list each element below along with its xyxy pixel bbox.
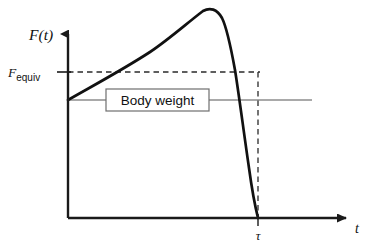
f-equiv-label: Fequiv — [7, 65, 40, 83]
diagram-canvas: F(t) Fequiv τ t Body weight — [0, 0, 372, 249]
tau-label-text: τ — [256, 228, 262, 243]
body-weight-annotation: Body weight — [106, 89, 209, 111]
body-weight-box-label: Body weight — [121, 93, 195, 108]
force-curve — [68, 9, 258, 218]
f-equiv-label-subscript: equiv — [16, 72, 40, 83]
figure-container: F(t) Fequiv τ t Body weight — [0, 0, 372, 249]
body-weight-box-label-text: Body weight — [121, 93, 195, 108]
tau-label: τ — [256, 228, 262, 243]
x-axis-label: t — [355, 221, 360, 236]
y-axis-label: F(t) — [28, 26, 53, 44]
y-axis-label-text: F(t) — [28, 26, 53, 44]
x-axis-label-text: t — [355, 221, 360, 236]
